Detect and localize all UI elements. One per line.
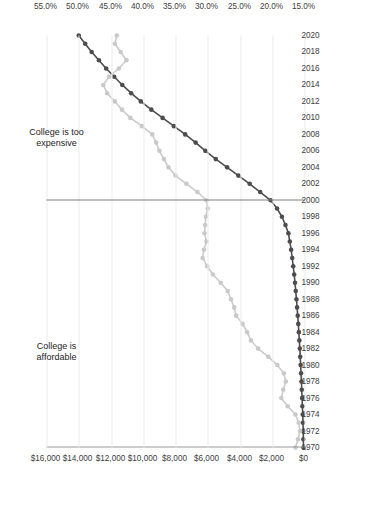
x-axis-tick-label: 2018	[301, 47, 319, 56]
data-point	[202, 230, 207, 235]
data-point	[292, 280, 297, 285]
right-axis-tick-label: 15.0%	[291, 1, 314, 10]
data-point	[300, 404, 305, 409]
right-axis-tick-label: 55.0%	[33, 1, 56, 10]
x-axis-tick-label: 2006	[301, 146, 319, 155]
x-axis-tick-label: 2016	[301, 63, 319, 72]
left-axis-tick-label: $10,000	[127, 453, 157, 462]
x-axis-tick-label: 1984	[301, 327, 319, 336]
left-axis-tick-label: $0	[298, 453, 307, 462]
data-point	[299, 387, 304, 392]
data-point	[202, 222, 207, 227]
data-point	[228, 296, 233, 301]
series-line	[103, 35, 300, 447]
plot-area	[46, 35, 304, 447]
data-point	[297, 338, 302, 343]
x-axis-tick-label: 2020	[301, 31, 319, 40]
data-point	[295, 313, 300, 318]
x-axis-tick-label: 2008	[301, 129, 319, 138]
data-point	[289, 255, 294, 260]
rotated-chart-stage: College is too expensive College is affo…	[0, 0, 380, 507]
x-axis-tick-label: 2014	[301, 80, 319, 89]
right-axis-tick-label: 45.0%	[98, 1, 121, 10]
data-point	[161, 156, 166, 161]
x-axis-tick-label: 2002	[301, 179, 319, 188]
x-axis-tick-label: 1978	[301, 377, 319, 386]
left-axis-tick-label: $8,000	[161, 453, 186, 462]
data-point	[153, 140, 158, 145]
left-axis-tick-label: $14,000	[62, 453, 92, 462]
left-axis-tick-label: $2,000	[258, 453, 283, 462]
data-point	[291, 272, 296, 277]
x-axis-tick-label: 1994	[301, 245, 319, 254]
x-axis-tick-label: 1988	[301, 294, 319, 303]
left-axis-tick-label: $6,000	[194, 453, 219, 462]
data-point	[296, 420, 301, 425]
data-point	[288, 247, 293, 252]
x-axis-tick-label: 1990	[301, 278, 319, 287]
data-point	[157, 148, 162, 153]
gridline	[78, 35, 79, 447]
x-axis-tick-label: 2000	[301, 195, 319, 204]
data-point	[283, 222, 288, 227]
x-axis-tick-label: 1970	[301, 443, 319, 452]
left-axis-tick-label: $16,000	[30, 453, 60, 462]
data-point	[294, 296, 299, 301]
annotation-college-too-expensive: College is too expensive	[29, 126, 84, 147]
x-axis-tick-label: 1982	[301, 344, 319, 353]
x-axis-tick-label: 1974	[301, 410, 319, 419]
gridline	[175, 35, 176, 447]
annotation-line-2: expensive	[36, 136, 77, 146]
x-axis-tick-label: 1980	[301, 360, 319, 369]
data-point	[287, 239, 292, 244]
x-axis-tick-label: 1986	[301, 311, 319, 320]
gridline	[272, 35, 273, 447]
data-point	[244, 329, 249, 334]
right-axis-tick-label: 40.0%	[130, 1, 153, 10]
annotation-line-1: College is	[36, 340, 76, 350]
gridline	[111, 35, 112, 447]
data-point	[293, 288, 298, 293]
data-point	[166, 165, 171, 170]
chart-screenshot: College is too expensive College is affo…	[0, 0, 380, 507]
data-point	[200, 255, 205, 260]
gridline	[240, 35, 241, 447]
data-point	[290, 263, 295, 268]
data-point	[297, 354, 302, 359]
data-point	[104, 90, 109, 95]
left-axis-tick-label: $4,000	[226, 453, 251, 462]
right-axis-tick-label: 30.0%	[195, 1, 218, 10]
gridline	[207, 35, 208, 447]
data-point	[286, 230, 291, 235]
data-point	[233, 313, 238, 318]
data-point	[294, 305, 299, 310]
gridline	[46, 35, 47, 447]
x-axis-tick-label: 1976	[301, 393, 319, 402]
x-axis-tick-label: 1992	[301, 261, 319, 270]
x-axis-tick-label: 1996	[301, 228, 319, 237]
annotation-college-affordable: College is affordable	[36, 340, 76, 361]
affordability-divider-line	[46, 199, 304, 200]
x-axis-tick-label: 2004	[301, 162, 319, 171]
x-axis-tick-label: 1998	[301, 212, 319, 221]
data-point	[248, 338, 253, 343]
x-axis-tick-label: 1972	[301, 426, 319, 435]
right-axis-tick-label: 35.0%	[162, 1, 185, 10]
right-axis-tick-label: 20.0%	[259, 1, 282, 10]
data-point	[231, 305, 236, 310]
x-axis-tick-label: 2010	[301, 113, 319, 122]
right-axis-tick-label: 25.0%	[227, 1, 250, 10]
data-point	[114, 33, 119, 38]
right-axis-tick-label: 50.0%	[66, 1, 89, 10]
left-axis-tick-label: $12,000	[95, 453, 125, 462]
annotation-line-2: affordable	[36, 351, 76, 361]
data-point	[283, 379, 288, 384]
data-point	[298, 371, 303, 376]
annotation-line-1: College is too	[29, 126, 84, 136]
x-axis-tick-label: 2012	[301, 96, 319, 105]
data-point	[295, 321, 300, 326]
gridline	[143, 35, 144, 447]
data-point	[296, 329, 301, 334]
